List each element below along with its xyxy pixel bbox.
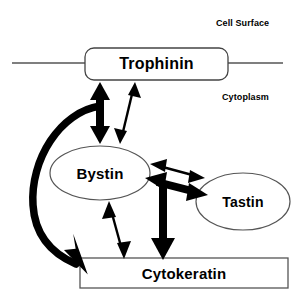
edge-bystin-cytokeratin-thin — [102, 201, 131, 259]
edge-trophinin-bystin-thin — [114, 82, 141, 144]
node-shape-trophinin — [85, 48, 228, 80]
region-label-cytoplasm: Cytoplasm — [222, 92, 269, 102]
diagram-canvas: Cell Surface Cytoplasm Trophinin Bystin … — [0, 0, 305, 305]
node-shape-bystin — [50, 146, 150, 200]
node-shape-tastin — [196, 173, 290, 230]
region-label-cell-surface: Cell Surface — [216, 18, 269, 28]
diagram-graphics — [0, 0, 305, 305]
node-shape-cytokeratin — [80, 258, 288, 288]
edge-trophinin-bystin-thick — [90, 82, 110, 144]
edge-bystin-tastin-cytokeratin-thick — [145, 172, 208, 260]
